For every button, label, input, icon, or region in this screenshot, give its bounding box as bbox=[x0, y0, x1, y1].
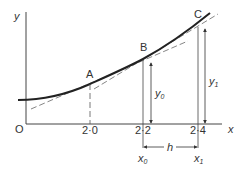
tick-label-2-0: 2·0 bbox=[82, 124, 98, 136]
x0-label: x0 bbox=[137, 152, 148, 165]
x1-label: x1 bbox=[193, 152, 204, 165]
y1-label: y1 bbox=[208, 75, 219, 88]
point-b-label: B bbox=[140, 41, 147, 53]
point-c-label: C bbox=[194, 8, 202, 20]
tick-label-2-2: 2·2 bbox=[135, 124, 151, 136]
tick-label-2-4: 2·4 bbox=[190, 124, 206, 136]
x-axis-label: x bbox=[227, 123, 234, 135]
point-a-label: A bbox=[86, 68, 94, 80]
origin-label: O bbox=[15, 123, 24, 135]
h-label: h bbox=[167, 141, 173, 153]
y-axis-label: y bbox=[13, 10, 21, 22]
y0-label: y0 bbox=[154, 87, 165, 100]
diagram-canvas: y x O A B C 2·0 2·2 2·4 y0 y1 h x0 x1 bbox=[0, 0, 245, 177]
curve bbox=[18, 13, 210, 100]
